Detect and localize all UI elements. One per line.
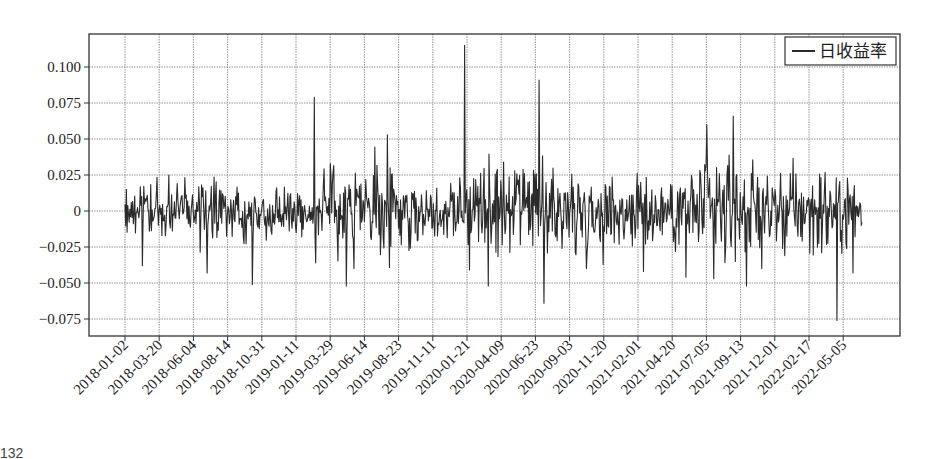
- y-tick-label: 0: [74, 203, 82, 219]
- x-axis: 2018-01-022018-03-202018-06-042018-08-14…: [70, 336, 849, 398]
- return-line: [125, 45, 862, 320]
- grid-lines: [89, 34, 900, 336]
- y-tick-label: 0.050: [47, 131, 81, 147]
- y-tick-label: 0.100: [47, 59, 81, 75]
- y-tick-label: 0.075: [47, 95, 81, 111]
- y-tick-label: −0.075: [39, 311, 81, 327]
- legend: 日收益率: [785, 37, 896, 65]
- y-axis: 0.1000.0750.0500.0250−0.025−0.050−0.075: [39, 59, 89, 327]
- y-tick-label: −0.050: [39, 275, 81, 291]
- plot-frame: [89, 34, 900, 336]
- line-chart: 0.1000.0750.0500.0250−0.025−0.050−0.075 …: [0, 0, 926, 459]
- legend-label: 日收益率: [819, 42, 887, 61]
- y-tick-label: 0.025: [47, 167, 81, 183]
- page-number-fragment: 132: [0, 446, 23, 459]
- daily-return-series: [125, 45, 862, 320]
- y-tick-label: −0.025: [39, 239, 81, 255]
